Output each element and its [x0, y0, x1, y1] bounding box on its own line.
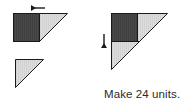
left-bottom-unit — [16, 60, 44, 88]
left-top-unit — [14, 14, 68, 42]
right-assembled-unit — [112, 14, 168, 70]
quilt-unit-diagram: Make 24 units. — [0, 0, 187, 108]
left-bottom-light-triangle — [16, 60, 44, 88]
caption-make-units: Make 24 units. — [104, 87, 187, 101]
right-dark-square — [112, 14, 138, 42]
left-top-light-triangle — [40, 14, 68, 42]
left-top-dark-rectangle — [14, 14, 40, 42]
